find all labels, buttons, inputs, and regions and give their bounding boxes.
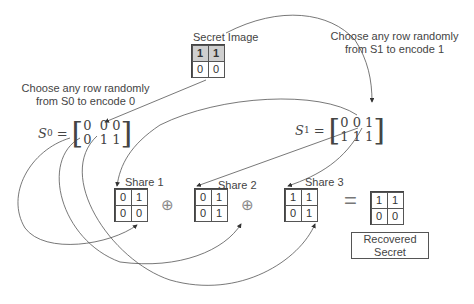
matrix-row: 0 0 1 xyxy=(340,116,373,130)
secret-cell: 0 xyxy=(208,61,225,78)
right-bracket: ] xyxy=(120,118,132,148)
recovered-caption-line: Recovered xyxy=(352,233,428,246)
recovered-secret-label: Recovered Secret xyxy=(351,232,429,259)
share-cell: 0 xyxy=(285,205,302,222)
s1-annotation-line: Choose any row randomly xyxy=(327,30,462,43)
share-2-grid: 0 1 0 1 xyxy=(194,188,228,222)
share-cell: 1 xyxy=(285,189,302,206)
secret-image-grid: 1 1 0 0 xyxy=(191,44,225,78)
share-3-grid: 1 1 0 1 xyxy=(284,188,318,222)
matrix-superscript: 1 xyxy=(304,125,310,135)
matrix-superscript: 0 xyxy=(47,128,53,138)
left-bracket: [ xyxy=(72,118,84,148)
equals-operator: = xyxy=(344,188,357,214)
secret-image-title: Secret Image xyxy=(193,31,258,43)
secret-cell: 1 xyxy=(208,45,225,62)
share-3-title: Share 3 xyxy=(305,176,344,188)
share-cell: 1 xyxy=(301,205,318,222)
share-cell: 0 xyxy=(115,189,132,206)
matrix-row: 0 0 0 xyxy=(83,119,120,133)
share-cell: 0 xyxy=(195,189,212,206)
recovered-cell: 1 xyxy=(371,192,388,209)
share-cell: 1 xyxy=(131,189,148,206)
matrix-row: 0 1 1 xyxy=(83,133,120,147)
share-cell: 0 xyxy=(131,205,148,222)
recovered-cell: 0 xyxy=(371,208,388,225)
share-cell: 1 xyxy=(211,189,228,206)
share-cell: 0 xyxy=(115,205,132,222)
s0-annotation-line: from S0 to encode 0 xyxy=(18,95,153,108)
matrix-row: 1 1 1 xyxy=(340,130,373,144)
s1-annotation: Choose any row randomly from S1 to encod… xyxy=(327,30,462,56)
share-1-grid: 0 1 0 0 xyxy=(114,188,148,222)
recovered-cell: 0 xyxy=(387,208,404,225)
share-cell: 0 xyxy=(195,205,212,222)
secret-cell: 1 xyxy=(192,45,209,62)
share-cell: 1 xyxy=(211,205,228,222)
matrix-symbol: S xyxy=(38,126,47,141)
equals-sign: = xyxy=(314,123,325,138)
s1-matrix: S 1 = [ 0 0 1 1 1 1 ] xyxy=(295,115,385,145)
share-1-title: Share 1 xyxy=(125,176,164,188)
xor-operator: ⊕ xyxy=(161,196,174,214)
s0-annotation: Choose any row randomly from S0 to encod… xyxy=(18,82,153,108)
xor-operator: ⊕ xyxy=(241,196,254,214)
recovered-grid: 1 1 0 0 xyxy=(370,191,404,225)
left-bracket: [ xyxy=(329,115,341,145)
share-cell: 1 xyxy=(301,189,318,206)
s0-annotation-line: Choose any row randomly xyxy=(18,82,153,95)
secret-cell: 0 xyxy=(192,61,209,78)
s1-annotation-line: from S1 to encode 1 xyxy=(327,43,462,56)
equals-sign: = xyxy=(57,126,68,141)
right-bracket: ] xyxy=(373,115,385,145)
matrix-symbol: S xyxy=(295,123,304,138)
recovered-caption-line: Secret xyxy=(352,246,428,259)
s0-matrix: S 0 = [ 0 0 0 0 1 1 ] xyxy=(38,118,132,148)
recovered-cell: 1 xyxy=(387,192,404,209)
